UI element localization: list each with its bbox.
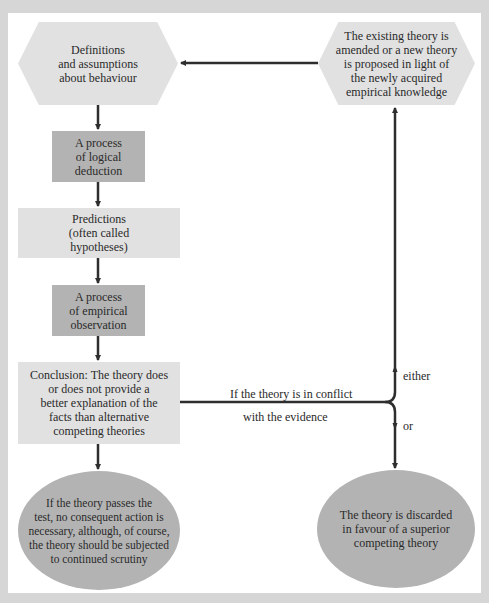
or-arrow-tick [393,423,398,430]
arrow-conflict-to-discarded [385,402,395,468]
node-text: to continued scrutiny [28,552,169,566]
node-text: the theory should be subjected [28,538,169,552]
node-text: empirical knowledge [336,85,457,99]
node-passes-test: If the theory passes the test, no conseq… [18,471,180,590]
node-predictions: Predictions (often called hypotheses) [18,208,180,258]
node-text: of empirical [69,304,127,318]
node-text: better explanation of the [30,396,168,410]
node-text: (often called [69,226,129,240]
node-text: and assumptions [58,57,138,71]
node-text: Predictions [69,212,129,226]
node-empirical-observation: A process of empirical observation [52,285,145,336]
node-amended-theory: The existing theory is amended or a new … [318,22,475,105]
node-text: about behaviour [58,71,138,85]
node-text: or does not provide a [30,382,168,396]
node-logical-deduction: A process of logical deduction [52,131,145,182]
node-text: necessary, although, of course, [28,524,169,538]
node-text: competing theories [30,424,168,438]
node-text: The existing theory is [336,29,457,43]
node-text: amended or a new theory [336,43,457,57]
either-label: either [403,369,430,383]
conflict-label-line1: If the theory is in conflict [230,387,352,401]
node-text: A process [69,290,127,304]
or-label: or [403,419,413,433]
node-text: A process [75,136,122,150]
node-text: The theory is discarded [340,508,452,522]
node-definitions: Definitions and assumptions about behavi… [18,22,178,105]
node-text: in favour of a superior [340,522,452,536]
node-text: If the theory passes the [28,496,169,510]
either-arrow-tick [393,365,398,372]
node-text: Conclusion: The theory does [30,368,168,382]
node-text: hypotheses) [69,240,129,254]
node-text: the newly acquired [336,71,457,85]
node-text: is proposed in light of [336,57,457,71]
node-text: of logical [75,150,122,164]
node-text: observation [69,318,127,332]
conflict-label-line2: with the evidence [243,410,328,424]
node-conclusion: Conclusion: The theory does or does not … [18,362,180,444]
node-text: competing theory [340,536,452,550]
node-text: test, no consequent action is [28,510,169,524]
node-text: deduction [75,164,122,178]
node-discarded: The theory is discarded in favour of a s… [317,470,475,588]
node-text: facts than alternative [30,410,168,424]
arrow-conflict-to-amended [180,108,395,402]
node-text: Definitions [58,43,138,57]
